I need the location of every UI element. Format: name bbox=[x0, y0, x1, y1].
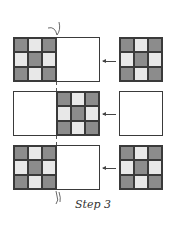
row2-nine-patch-right bbox=[56, 91, 100, 136]
step-caption: Step 3 bbox=[75, 198, 111, 211]
row3-arrow-left-icon bbox=[103, 168, 116, 169]
row1-source-nine-patch bbox=[119, 37, 163, 82]
seam-dashed-line-2 bbox=[56, 136, 57, 145]
row3-nine-patch-left bbox=[13, 145, 57, 190]
bottom-curl-mark-icon bbox=[53, 190, 67, 206]
row3-source-nine-patch bbox=[119, 145, 163, 190]
row1-arrow-left-icon bbox=[103, 61, 116, 62]
top-curl-mark-icon bbox=[46, 20, 66, 42]
row2-arrow-left-icon bbox=[103, 114, 116, 115]
row2-source-empty-square bbox=[119, 91, 163, 136]
row1-nine-patch-left bbox=[13, 37, 57, 82]
seam-dashed-line-1 bbox=[56, 82, 57, 91]
